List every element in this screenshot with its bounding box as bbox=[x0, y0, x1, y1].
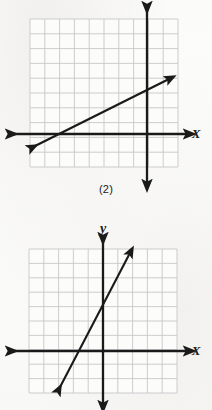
figure-1-caption: (2) bbox=[0, 183, 212, 195]
figure-2-y-axis-label: y bbox=[98, 221, 107, 236]
figure-1-coordinate-plane: X bbox=[0, 0, 212, 200]
figure-1-x-axis-label: X bbox=[191, 126, 201, 141]
figure-2-x-axis-label: X bbox=[191, 343, 201, 358]
figure-1-gridlines bbox=[30, 19, 178, 167]
figure-2-coordinate-plane: y X bbox=[0, 205, 212, 410]
